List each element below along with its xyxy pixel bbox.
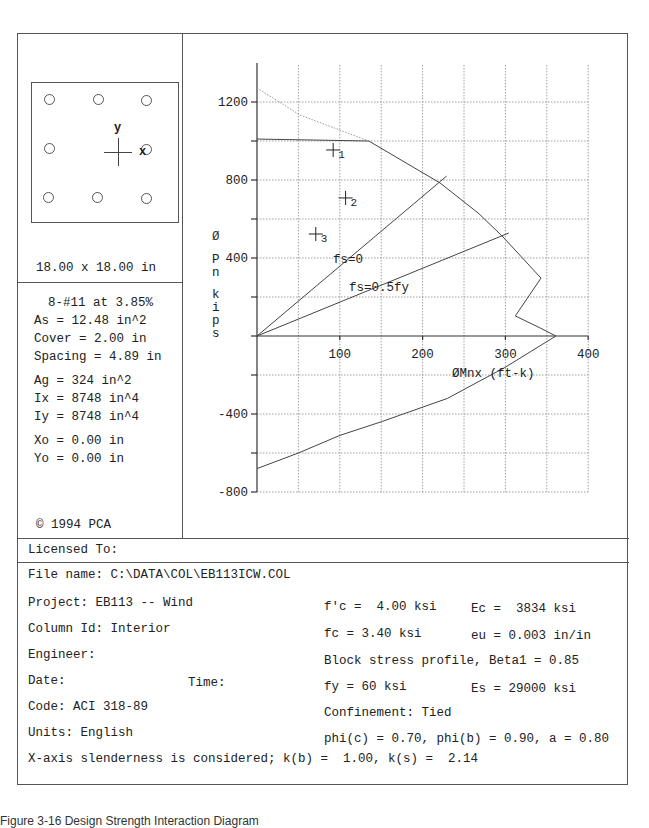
interaction-diagram: 1200800400-400-800100200300400 123 Ø Pn …: [0, 0, 649, 560]
svg-text:300: 300: [494, 348, 517, 362]
confinement-text: Confinement: Tied: [324, 706, 452, 720]
svg-text:-400: -400: [218, 408, 248, 422]
fpc-text: f'c = 4.00 ksi: [324, 600, 437, 614]
x-axis-title: ØMnx (ft-k): [452, 367, 535, 381]
svg-text:p: p: [212, 314, 220, 328]
ylabel-phi: Ø: [212, 230, 220, 244]
svg-text:n: n: [212, 266, 220, 280]
svg-text:-800: -800: [218, 486, 248, 500]
fs0-label: fs=0: [333, 253, 363, 267]
load-points: 123: [309, 143, 357, 245]
code-text: Code: ACI 318-89: [28, 700, 148, 714]
svg-text:i: i: [212, 301, 220, 315]
svg-text:1: 1: [338, 149, 345, 161]
svg-text:2: 2: [351, 197, 358, 209]
svg-text:P: P: [212, 253, 220, 267]
date-text: Date:: [28, 674, 66, 688]
ec-text: Ec = 3834 ksi: [471, 602, 576, 616]
fc-text: fc = 3.40 ksi: [324, 627, 422, 641]
es-text: Es = 29000 ksi: [471, 682, 576, 696]
svg-text:200: 200: [411, 348, 434, 362]
slenderness-text: X-axis slenderness is considered; k(b) =…: [28, 752, 478, 766]
figure-caption: Figure 3-16 Design Strength Interaction …: [0, 814, 259, 828]
fy-text: fy = 60 ksi: [324, 680, 407, 694]
column-id-text: Column Id: Interior: [28, 622, 171, 636]
svg-text:100: 100: [329, 348, 352, 362]
y-axis-title: Pn ki ps: [212, 253, 220, 341]
block-stress-text: Block stress profile, Beta1 = 0.85: [324, 654, 579, 668]
svg-text:3: 3: [321, 233, 328, 245]
divider: [18, 562, 629, 563]
svg-text:k: k: [212, 288, 220, 302]
svg-text:400: 400: [225, 252, 248, 266]
units-text: Units: English: [28, 726, 133, 740]
tick-labels: 1200800400-400-800100200300400: [218, 96, 599, 500]
eu-text: eu = 0.003 in/in: [471, 629, 591, 643]
file-name-text: File name: C:\DATA\COL\EB113ICW.COL: [28, 568, 291, 582]
chart-axes: [251, 63, 588, 492]
time-text: Time:: [188, 676, 226, 690]
chart-grid: [257, 65, 588, 492]
svg-text:400: 400: [577, 348, 600, 362]
engineer-text: Engineer:: [28, 648, 96, 662]
project-text: Project: EB113 -- Wind: [28, 596, 193, 610]
svg-text:1200: 1200: [218, 96, 248, 110]
chart-series: [257, 88, 556, 469]
svg-text:s: s: [212, 327, 220, 341]
fs05fy-label: fs=0.5fy: [349, 281, 410, 295]
phi-factors-text: phi(c) = 0.70, phi(b) = 0.90, a = 0.80: [324, 732, 609, 746]
svg-text:800: 800: [225, 174, 248, 188]
